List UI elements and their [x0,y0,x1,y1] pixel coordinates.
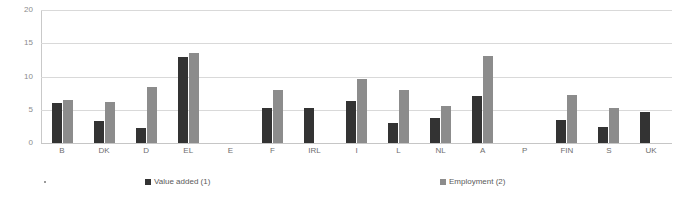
y-axis-tick-label: 5 [29,106,33,114]
bar-employment [273,90,283,143]
bar-employment [441,106,451,143]
legend-label: Employment (2) [449,177,505,186]
x-axis-tick-label: UK [645,146,656,156]
x-axis-tick-label: EL [183,146,193,156]
bar-group [420,10,462,143]
legend-label: Value added (1) [154,177,210,186]
bar-group [125,10,167,143]
bar-value-added [304,108,314,143]
bar-value-added [346,101,356,143]
bar-group [504,10,546,143]
bar-employment [357,79,367,143]
bar-group [335,10,377,143]
y-axis-tick-label: 0 [29,139,33,147]
x-axis-tick-label: S [606,146,611,156]
x-axis-tick-label: P [522,146,527,156]
x-axis-tick-label: F [270,146,275,156]
bar-value-added [52,103,62,143]
bar-value-added [598,127,608,143]
x-axis-tick-label: L [396,146,400,156]
legend-entry-value-added: Value added (1) [145,177,210,186]
x-axis-tick-label: A [480,146,485,156]
bar-employment [567,95,577,143]
bar-group [462,10,504,143]
x-axis-tick-label: B [59,146,64,156]
x-axis-tick-label: D [143,146,149,156]
bar-group [378,10,420,143]
bar-value-added [94,121,104,143]
bar-value-added [136,128,146,143]
y-axis-tick-label: 15 [24,39,33,47]
bar-employment [483,56,493,143]
bar-group [251,10,293,143]
bar-employment [399,90,409,143]
bar-group [83,10,125,143]
bar-group [209,10,251,143]
bar-employment [147,87,157,143]
x-axis-tick-label: IRL [308,146,320,156]
plot-area [41,10,672,143]
bar-value-added [640,112,650,143]
bar-employment [63,100,73,143]
bar-value-added [472,96,482,143]
bar-value-added [262,108,272,143]
bar-employment [609,108,619,143]
chart-legend: Value added (1) Employment (2) [0,177,678,191]
legend-entry-employment: Employment (2) [440,177,505,186]
x-axis-tick-label: DK [99,146,110,156]
x-axis-tick-label: FIN [560,146,573,156]
x-axis-tick-label: NL [436,146,446,156]
bar-value-added [388,123,398,143]
x-axis-tick-label: I [355,146,357,156]
y-axis-labels: 05101520 [0,0,38,153]
bar-employment [189,53,199,143]
bar-group [546,10,588,143]
bar-value-added [178,57,188,143]
legend-swatch-icon [440,179,446,185]
bar-group [167,10,209,143]
y-axis-tick-label: 20 [24,6,33,14]
bar-value-added [556,120,566,143]
corner-mark [44,181,46,183]
x-axis-labels: BDKDELEFIRLILNLAPFINSUK [41,146,672,160]
bar-group [293,10,335,143]
bar-chart: 05101520 BDKDELEFIRLILNLAPFINSUK Value a… [0,0,678,202]
y-axis-tick-label: 10 [24,73,33,81]
bar-group [630,10,672,143]
bar-group [41,10,83,143]
bar-group [588,10,630,143]
gridline [41,143,672,144]
bar-employment [105,102,115,143]
x-axis-tick-label: E [228,146,233,156]
bar-value-added [430,118,440,143]
legend-swatch-icon [145,179,151,185]
